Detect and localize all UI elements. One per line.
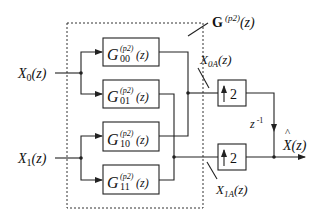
svg-text:X(z): X(z)	[282, 138, 307, 154]
svg-text:(p2): (p2)	[120, 44, 134, 53]
input-x0-label: X0(z)	[17, 66, 47, 83]
svg-text:G: G	[107, 88, 119, 105]
upsampler-top-factor: 2	[230, 87, 237, 102]
matrix-label: G(p2)(z)	[212, 13, 255, 31]
svg-text:11: 11	[120, 181, 130, 192]
x1-to-g10	[81, 136, 102, 158]
g11-out	[159, 157, 174, 180]
svg-text:(p2): (p2)	[120, 172, 134, 181]
matrix-label-leader	[188, 23, 208, 36]
svg-text:^: ^	[285, 126, 291, 138]
svg-text:(p2): (p2)	[120, 86, 134, 95]
output-label: ^ X(z)	[282, 126, 307, 154]
delay-label: z-1	[249, 116, 263, 131]
upsampler-bottom-factor: 2	[230, 151, 237, 166]
g00-out	[159, 52, 188, 93]
svg-text:G: G	[107, 131, 119, 148]
svg-text:(z): (z)	[136, 176, 149, 190]
x0-to-g00	[81, 52, 102, 73]
x0a-label: X0A(z)	[199, 52, 232, 69]
svg-text:(p2): (p2)	[120, 129, 134, 138]
g01-out	[159, 94, 174, 157]
x1-to-g11	[81, 158, 102, 180]
svg-text:(z): (z)	[136, 133, 149, 147]
svg-text:01: 01	[120, 95, 130, 106]
input-x1-label: X1(z)	[17, 151, 47, 168]
x1a-label: X1A(z)	[215, 182, 248, 199]
svg-text:(z): (z)	[136, 48, 149, 62]
svg-text:G: G	[107, 46, 119, 63]
filter-bank-diagram: X0(z) X1(z) G(p2)(z) G (p2) 00 (z) G (p2…	[0, 0, 323, 220]
x1a-leader	[207, 162, 217, 179]
svg-text:(z): (z)	[136, 90, 149, 104]
svg-text:00: 00	[120, 53, 130, 64]
x0-to-g01	[81, 73, 102, 94]
output-junction	[272, 155, 276, 159]
svg-text:10: 10	[120, 138, 130, 149]
svg-text:G: G	[107, 174, 119, 191]
